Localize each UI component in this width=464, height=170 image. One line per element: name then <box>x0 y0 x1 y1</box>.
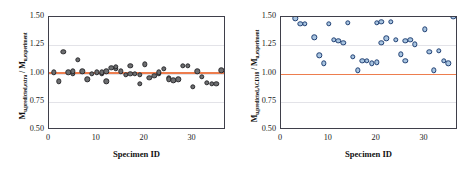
data-point <box>326 21 331 26</box>
data-point <box>214 81 219 86</box>
data-point <box>436 48 441 53</box>
data-point <box>56 79 61 84</box>
data-point <box>345 20 350 25</box>
data-point <box>142 62 147 67</box>
data-point <box>199 74 204 79</box>
x-tick-label: 30 <box>181 134 203 142</box>
two-panel-scatter-figure: Mu,predicted,extra / Mu,experiment Speci… <box>0 0 464 170</box>
gridline-y <box>281 102 456 103</box>
gridline-y <box>281 45 456 46</box>
data-point <box>104 79 109 84</box>
data-point <box>317 53 322 58</box>
data-point <box>137 81 142 86</box>
data-point <box>451 16 456 20</box>
data-point <box>422 27 427 32</box>
data-point <box>431 67 436 72</box>
data-point <box>355 67 360 72</box>
gridline-y <box>49 102 224 103</box>
data-point <box>312 35 317 40</box>
x-axis-label-right: Specimen ID <box>279 149 459 159</box>
data-point <box>175 76 180 81</box>
data-point <box>61 49 66 54</box>
gridline-y <box>49 45 224 46</box>
y-tick-label: 1.25 <box>18 40 44 48</box>
data-point <box>161 66 166 71</box>
data-point <box>293 16 298 21</box>
x-tick-label: 20 <box>365 134 387 142</box>
x-tick-label: 10 <box>85 134 107 142</box>
data-point <box>137 72 142 77</box>
chart-panel-right: Mu,predicted,ACI318 / Mu,experiment Spec… <box>232 0 464 170</box>
data-point <box>393 37 398 42</box>
x-tick-label: 30 <box>413 134 435 142</box>
y-tick-label: 1.00 <box>18 69 44 77</box>
data-point <box>321 61 326 66</box>
plot-area-left <box>48 16 225 129</box>
data-point <box>128 63 133 68</box>
data-point <box>427 49 432 54</box>
x-axis-label-left: Specimen ID <box>47 149 227 159</box>
data-point <box>446 61 451 66</box>
data-point <box>374 59 379 64</box>
y-tick-label: 1.00 <box>250 69 276 77</box>
y-axis-label-right-m1: M <box>250 115 259 123</box>
chart-panel-left: Mu,predicted,extra / Mu,experiment Speci… <box>0 0 232 170</box>
data-point <box>185 63 190 68</box>
y-tick-label: 1.50 <box>250 12 276 20</box>
data-point <box>75 57 80 62</box>
y-tick-label: 0.75 <box>250 97 276 105</box>
x-tick-label: 10 <box>317 134 339 142</box>
data-point <box>85 76 90 81</box>
y-tick-label: 1.50 <box>18 12 44 20</box>
data-point <box>388 19 393 24</box>
x-tick-label: 20 <box>133 134 155 142</box>
y-tick-label: 1.25 <box>250 40 276 48</box>
data-point <box>350 54 355 59</box>
x-tick-label: 0 <box>269 134 291 142</box>
y-tick-label: 0.50 <box>18 125 44 133</box>
data-point <box>302 21 307 26</box>
plot-area-right <box>280 16 457 129</box>
data-point <box>403 58 408 63</box>
x-tick-label: 0 <box>37 134 59 142</box>
data-point <box>398 52 403 57</box>
data-point <box>379 19 384 24</box>
reference-line <box>281 74 456 75</box>
y-tick-label: 0.75 <box>18 97 44 105</box>
data-point <box>190 84 195 89</box>
y-axis-label-left-m1: M <box>18 112 27 120</box>
y-axis-label-left-sub1: u,predicted,extra <box>22 75 28 112</box>
y-tick-label: 0.50 <box>250 125 276 133</box>
y-axis-label-right-sub1: u,predicted,ACI318 <box>254 72 260 115</box>
data-point <box>384 36 389 41</box>
y-axis-label-right-m2: M <box>250 58 259 66</box>
